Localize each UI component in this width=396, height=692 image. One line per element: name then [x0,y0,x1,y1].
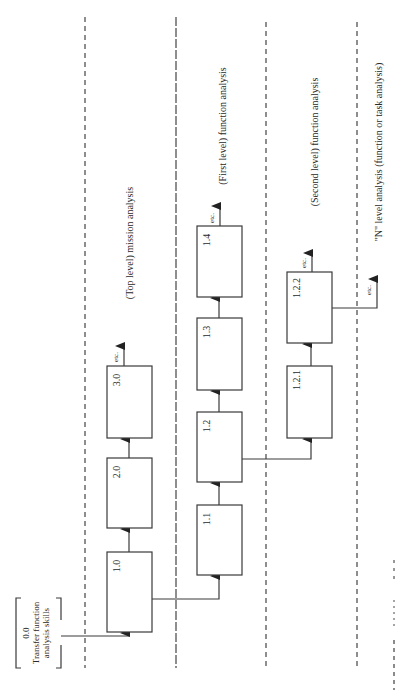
etc-label-n-level: etc. [365,285,373,295]
svg-text:1.2: 1.2 [201,420,212,433]
level-label-second: (Second level) function analysis [309,78,321,207]
function-analysis-diagram: 0.0 Transfer function analysis skills 1.… [0,0,396,692]
connector-0-0-to-1-0 [61,633,129,636]
box-1-2: 1.2 [197,412,242,482]
etc-label-1-4: etc. [208,213,216,223]
svg-text:2.0: 2.0 [111,466,122,479]
origin-box-title-line1: Transfer function [31,601,41,664]
level-label-n: "N" level analysis (function or task ana… [373,63,385,242]
svg-text:1.1: 1.1 [201,513,212,526]
origin-box-0-0: 0.0 Transfer function analysis skills [16,598,61,668]
box-1-3: 1.3 [197,318,242,390]
svg-text:1.0: 1.0 [111,560,122,573]
origin-box-title-line2: analysis skills [41,607,51,658]
box-2-0: 2.0 [107,458,152,528]
svg-text:1.2.1: 1.2.1 [291,370,302,390]
box-1-2-1: 1.2.1 [287,366,332,438]
origin-box-id: 0.0 [21,627,31,639]
svg-text:1.3: 1.3 [201,326,212,339]
box-1-4: 1.4 [197,226,242,297]
box-1-2-2: 1.2.2 [287,272,332,343]
etc-label-3-0: etc. [112,352,120,362]
svg-text:3.0: 3.0 [111,374,122,387]
level-label-first: (First level) function analysis [217,67,229,185]
connector-1-0-to-1-1 [152,576,219,599]
svg-text:1.4: 1.4 [201,234,212,247]
box-1-1: 1.1 [197,505,242,575]
svg-text:1.2.2: 1.2.2 [291,278,302,298]
level-label-top: (Top level) mission analysis [124,187,136,299]
connector-1-2-to-1-2-1 [242,439,311,459]
box-3-0: 3.0 [107,366,152,438]
box-1-0: 1.0 [107,552,152,632]
etc-label-1-2-2: etc. [300,258,308,268]
